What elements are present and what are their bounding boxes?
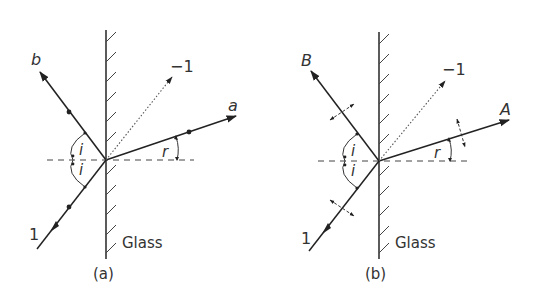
glass-hatching	[379, 34, 389, 253]
angle-label-r: r	[162, 143, 169, 161]
incident-label: 1	[29, 225, 39, 244]
angle-label-i-lower: i	[351, 162, 356, 180]
reflected-label: b	[31, 50, 41, 69]
angle-label-i-upper: i	[79, 141, 84, 159]
panel-caption: (a)	[93, 265, 114, 283]
reflection-refraction-figure: i i r b a −1 1 Glass (a)	[0, 0, 536, 296]
refracted-label: A	[499, 100, 511, 119]
reversed-label: −1	[442, 60, 466, 79]
glass-label: Glass	[122, 234, 163, 252]
reversed-label: −1	[170, 57, 194, 76]
panel-caption: (b)	[365, 265, 386, 283]
angle-label-i-upper: i	[351, 142, 356, 160]
panel-b: i i r B A −1 1 Glass (b)	[301, 32, 511, 283]
refracted-label: a	[228, 96, 238, 115]
refracted-ray	[379, 120, 509, 161]
refracted-ray	[106, 116, 236, 160]
angle-arc-refraction	[449, 139, 451, 161]
angle-label-i-lower: i	[79, 161, 84, 179]
glass-hatching	[106, 32, 116, 253]
polarization-arrows	[330, 104, 465, 216]
angle-label-r: r	[434, 144, 441, 162]
reflected-label: B	[301, 51, 312, 70]
panel-a: i i r b a −1 1 Glass (a)	[29, 30, 238, 283]
reflected-ray	[40, 72, 106, 160]
reflected-ray	[311, 71, 379, 161]
angle-arc-refraction	[176, 137, 178, 160]
incident-label: 1	[301, 229, 311, 248]
glass-label: Glass	[395, 234, 436, 252]
